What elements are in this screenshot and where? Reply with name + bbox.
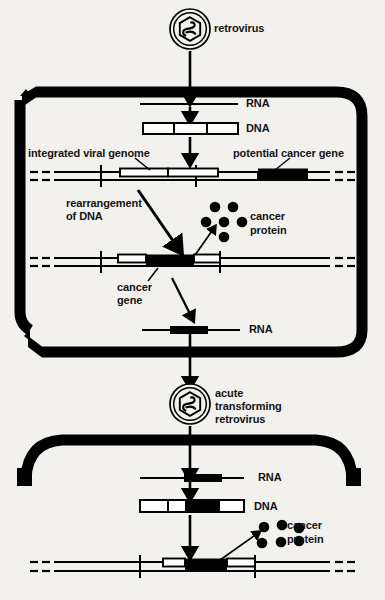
viral-dna-bar-bottom [140, 500, 244, 512]
label-retrovirus: retrovirus [214, 22, 264, 35]
label-cancer-protein-line1: cancer [250, 210, 285, 223]
virus-particle-icon-acute [170, 384, 210, 424]
host-chromosome-integrated [30, 165, 355, 187]
label-acute-line1: acute [215, 387, 243, 400]
label-rna-bottom: RNA [258, 471, 282, 484]
viral-dna-bar-top [143, 123, 238, 134]
leader-line-potential-cancer-gene [275, 158, 290, 170]
host-chromosome-bottom [30, 555, 355, 578]
label-rna-mid: RNA [249, 323, 273, 336]
label-cancer-protein-line2: protein [250, 224, 287, 237]
viral-rna-strand-bottom [140, 474, 244, 482]
label-rearrangement-line1: rearrangement [66, 197, 142, 210]
arrow-diagonal-icon-gene-to-protein [193, 228, 214, 258]
label-dna-top: DNA [246, 122, 270, 135]
label-cancer-gene-line1: cancer [117, 281, 152, 294]
host-chromosome-rearranged [30, 251, 355, 273]
label-cancer-protein2-line1: cancer [287, 519, 322, 532]
virus-particle-icon-top [170, 9, 210, 49]
label-rna-top: RNA [246, 97, 270, 110]
label-acute-line3: retrovirus [215, 413, 265, 426]
leader-line-cancer-gene [148, 268, 158, 281]
label-potential-cancer-gene: potential cancer gene [233, 147, 344, 160]
diagram-canvas: retrovirus RNA DNA integrated viral geno… [0, 0, 385, 600]
label-cancer-gene-line2: gene [117, 294, 142, 307]
label-cancer-protein2-line2: protein [287, 533, 324, 546]
label-acute-line2: transforming [215, 400, 282, 413]
arrow-diagonal-icon-rearrangement [138, 190, 178, 248]
label-dna-bottom: DNA [254, 500, 278, 513]
label-integrated-viral-genome: integrated viral genome [28, 147, 150, 160]
label-rearrangement-line2: of DNA [66, 210, 103, 223]
diagram-graphics [0, 0, 385, 600]
arrow-diagonal-icon-transcription [172, 278, 192, 318]
hybrid-rna-strand-mid [142, 326, 240, 334]
